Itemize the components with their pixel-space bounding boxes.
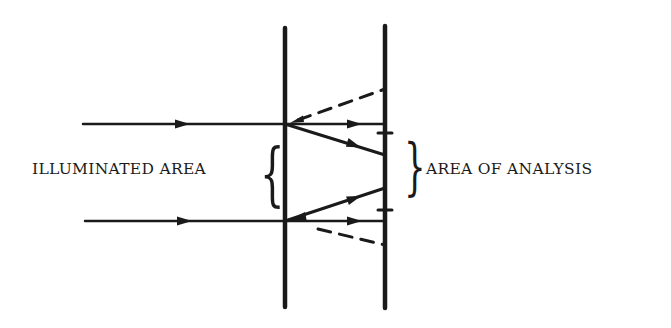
arrowhead-icon [177, 217, 192, 226]
bottom-dashed-ray [318, 229, 385, 245]
top-dashed-ray [298, 89, 385, 120]
right-brace-icon: } [404, 136, 426, 198]
arrowhead-icon [347, 120, 362, 129]
arrowhead-icon [175, 120, 190, 129]
top-diagonal-ray [285, 124, 385, 155]
illuminated-area-label: ILLUMINATED AREA [32, 160, 206, 178]
area-of-analysis-label: AREA OF ANALYSIS [426, 160, 592, 178]
arrowhead-icon [346, 196, 361, 205]
arrowhead-icon [347, 217, 362, 226]
arrowhead-icon [290, 116, 304, 124]
left-brace-icon: { [260, 139, 285, 209]
arrowhead-icon [346, 138, 361, 148]
